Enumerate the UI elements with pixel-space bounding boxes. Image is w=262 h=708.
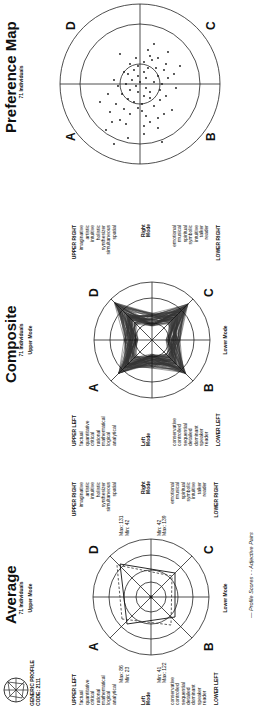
preference-map-quadrant-b: B — [204, 132, 218, 141]
average-quadrant-b: B — [202, 642, 216, 651]
composite-upper-right-heading: UPPER RIGHT — [72, 225, 77, 283]
average-count: 71 Individuals — [19, 558, 25, 638]
preference-map-quadrant-c: C — [204, 21, 218, 30]
composite-upper-left-list: UPPER LEFT factual quantitative critical… — [72, 396, 117, 446]
legend-text: — Profile Scores - - Adjective Pairs — [248, 532, 254, 618]
adjective: spatial — [112, 225, 117, 283]
average-upper-right-list: UPPER RIGHT imaginative artistic intuiti… — [72, 482, 130, 540]
composite-upper-left-heading: UPPER LEFT — [72, 396, 77, 446]
average-upper-left-min: Min: 23 — [125, 655, 130, 683]
right-mode-line2: Mode — [146, 224, 151, 237]
average-upper-mode: Upper Mode — [28, 558, 34, 638]
adjective: reader — [204, 396, 209, 446]
adjective: reader — [204, 225, 209, 283]
average-lower-left-max: Max: 122 — [162, 655, 167, 683]
average-lower-right-max: Max: 139 — [162, 482, 167, 536]
composite-lower-left-list: conservative controlled sequential detai… — [172, 396, 221, 446]
average-quadrant-d: D — [87, 545, 101, 554]
preference-points — [99, 43, 181, 145]
average-upper-right-min: Min: 42 — [125, 482, 130, 536]
adjective: analytical — [112, 655, 117, 705]
logo-label: GENERIC PROFILE CODE: 2111 — [30, 646, 41, 706]
composite-upper-mode: Upper Mode — [28, 300, 34, 380]
adjective: reader — [202, 482, 207, 540]
hbdi-profile-page: GENERIC PROFILE CODE: 2111 Average 71 In… — [0, 0, 262, 708]
preference-map-count: 71 Individuals — [19, 42, 25, 122]
composite-title: Composite — [2, 305, 19, 383]
average-lower-left-heading: LOWER LEFT — [214, 655, 219, 705]
preference-map-quadrant-a: A — [64, 132, 78, 141]
average-upper-left-list: UPPER LEFT factual quantitative critical… — [72, 655, 130, 705]
composite-left-mode: Left Mode — [141, 433, 152, 446]
average-lower-right-list: Min: 42 Max: 139 emotional musical spiri… — [157, 482, 219, 540]
composite-count: 71 Individuals — [19, 300, 25, 380]
average-adjective-pairs — [117, 565, 172, 625]
composite-quadrant-a: A — [87, 383, 101, 392]
adjective: reader — [202, 655, 207, 705]
composite-profile-lines — [114, 302, 188, 374]
average-lower-mode: Lower Mode — [223, 558, 229, 638]
left-mode-line2: Mode — [146, 433, 151, 446]
composite-lower-mode: Lower Mode — [223, 300, 229, 380]
average-upper-left-heading: UPPER LEFT — [72, 655, 77, 705]
composite-lower-right-heading: LOWER RIGHT — [216, 225, 221, 283]
adjective: spatial — [112, 482, 117, 540]
average-quadrant-a: A — [87, 642, 101, 651]
average-left-mode: Left Mode — [141, 692, 152, 705]
composite-upper-right-list: UPPER RIGHT imaginative artistic intuiti… — [72, 225, 117, 283]
logo-line2: CODE: 2111 — [36, 646, 42, 706]
adjective: analytical — [112, 396, 117, 446]
average-profile-scores — [120, 564, 175, 624]
average-right-mode: Right Mode — [141, 481, 152, 494]
right-mode-line2: Mode — [146, 481, 151, 494]
preference-map-quadrant-d: D — [64, 21, 78, 30]
composite-quadrant-b: B — [202, 383, 216, 392]
average-lower-left-list: Min: 41 Max: 122 conservative controlled… — [157, 655, 219, 705]
composite-right-mode: Right Mode — [141, 224, 152, 237]
average-title: Average — [2, 565, 19, 624]
composite-quadrant-d: D — [87, 288, 101, 297]
composite-lower-right-list: emotional musical spiritual symbolic int… — [172, 225, 221, 283]
preference-map-title: Preference Map — [2, 21, 19, 133]
left-mode-line2: Mode — [146, 692, 151, 705]
average-quadrant-c: C — [202, 545, 216, 554]
composite-quadrant-c: C — [202, 288, 216, 297]
composite-lower-left-heading: LOWER LEFT — [216, 396, 221, 446]
average-upper-right-heading: UPPER RIGHT — [72, 482, 77, 540]
average-lower-right-heading: LOWER RIGHT — [214, 482, 219, 540]
